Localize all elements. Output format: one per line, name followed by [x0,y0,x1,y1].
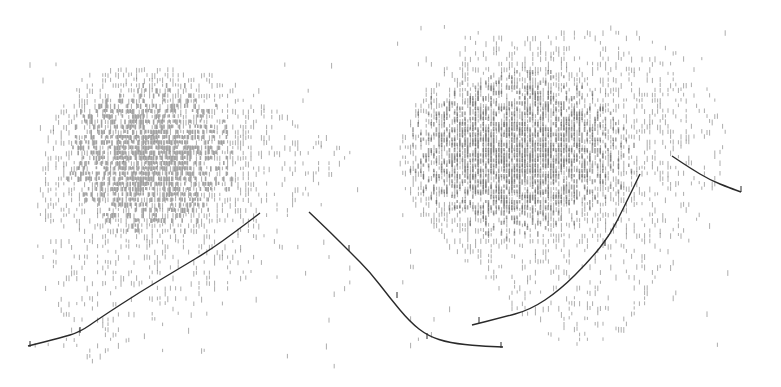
dual-density-plot [0,0,781,387]
density-mark-layer [30,25,728,368]
density-plot-figure [0,0,781,387]
left-density-cluster [30,62,358,368]
center-descending-curve [309,212,503,348]
right-short-curve [672,156,741,192]
right-density-cluster [398,25,728,348]
left-rising-curve [28,213,260,347]
